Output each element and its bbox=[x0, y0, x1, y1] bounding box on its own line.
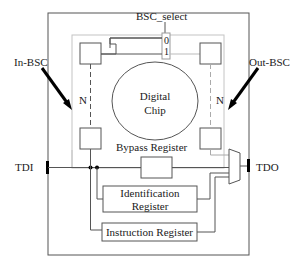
identification-register-line1: Identification bbox=[103, 187, 197, 199]
bypass-register-label: Bypass Register bbox=[116, 141, 187, 153]
tdo-pin bbox=[247, 159, 250, 172]
tdi-label: TDI bbox=[15, 161, 33, 173]
bsc-cell-top-left bbox=[80, 43, 101, 64]
bsc-cell-top-right bbox=[200, 43, 221, 64]
out-bsc-label: Out-BSC bbox=[249, 56, 290, 68]
in-bsc-label: In-BSC bbox=[14, 56, 48, 68]
chip-label-line1: Digital bbox=[130, 90, 180, 102]
bsc-cell-bottom-right bbox=[200, 128, 221, 149]
instruction-register-label: Instruction Register bbox=[102, 226, 197, 238]
identification-register-line2: Register bbox=[103, 200, 197, 212]
n-right-label: N bbox=[216, 94, 224, 106]
chip-label-line2: Chip bbox=[130, 104, 180, 116]
tdo-label: TDO bbox=[256, 161, 279, 173]
output-mux bbox=[229, 149, 240, 184]
bsc-cell-bottom-left bbox=[80, 128, 101, 149]
mux-input-1-label: 1 bbox=[164, 46, 169, 58]
bypass-register bbox=[141, 157, 172, 178]
bsc-select-label: BSC_select bbox=[136, 10, 187, 22]
n-left-label: N bbox=[79, 94, 87, 106]
